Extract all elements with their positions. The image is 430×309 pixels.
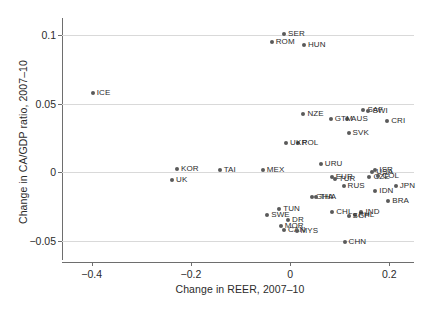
x-tick-mark — [191, 262, 192, 266]
y-tick-label: −0.05 — [10, 235, 56, 247]
data-point-label: MEX — [267, 166, 285, 174]
data-point-label: JPN — [400, 182, 415, 190]
data-point — [342, 184, 346, 188]
data-point-label: COL — [382, 172, 399, 180]
data-point — [301, 112, 305, 116]
data-point-label: UKR — [290, 139, 307, 147]
y-tick-label: 0 — [10, 166, 56, 178]
data-point-label: ROM — [276, 38, 295, 46]
gridline-y — [62, 172, 414, 173]
data-point — [91, 91, 95, 95]
x-tick-label: 0 — [260, 268, 320, 280]
data-point-label: GTM — [335, 115, 353, 123]
data-point — [282, 32, 286, 36]
x-tick-label: 0.2 — [359, 268, 419, 280]
data-point — [295, 229, 299, 233]
data-point — [265, 213, 269, 217]
data-point — [302, 43, 306, 47]
data-point — [175, 167, 179, 171]
data-point — [385, 119, 389, 123]
data-point — [279, 224, 283, 228]
gridline-y — [62, 35, 414, 36]
x-tick-label: −0.2 — [161, 268, 221, 280]
data-point-label: IDN — [379, 187, 393, 195]
x-axis-title: Change in REER, 2007–10 — [60, 283, 420, 295]
data-point — [333, 177, 337, 181]
data-point-label: CHN — [349, 238, 367, 246]
y-tick-label: 0.05 — [10, 98, 56, 110]
data-point — [314, 195, 318, 199]
data-point-label: SGP — [353, 212, 370, 220]
gridline-y — [62, 104, 414, 105]
y-axis-title: Change in CA/GDP ratio, 2007–10 — [14, 22, 32, 262]
data-point-label: ICE — [97, 89, 111, 97]
data-point-label: SVK — [353, 129, 369, 137]
data-point — [343, 240, 347, 244]
data-point — [361, 108, 365, 112]
data-point — [373, 189, 377, 193]
data-point — [270, 40, 274, 44]
data-point-label: CRI — [391, 117, 405, 125]
data-point-label: AUS — [351, 115, 368, 123]
x-tick-label: −0.4 — [62, 268, 122, 280]
data-point — [282, 228, 286, 232]
data-point — [386, 199, 390, 203]
plot-area: ICESERROMHUNSAFSWICRIAUSGTMNZESVKPOLUKRU… — [62, 18, 414, 258]
x-axis-spine — [62, 262, 414, 263]
x-tick-mark — [92, 262, 93, 266]
data-point-label: URU — [325, 160, 343, 168]
data-point-label: THA — [320, 193, 336, 201]
data-point — [329, 117, 333, 121]
y-tick-label: 0.1 — [10, 29, 56, 41]
data-point-label: BRA — [392, 197, 409, 205]
data-point-label: UK — [176, 176, 187, 184]
data-point — [284, 141, 288, 145]
data-point-label: RUS — [348, 182, 365, 190]
data-point — [170, 178, 174, 182]
data-point — [347, 131, 351, 135]
data-point-label: TAI — [224, 166, 236, 174]
data-point — [319, 162, 323, 166]
data-point-label: NZE — [307, 110, 323, 118]
data-point — [330, 210, 334, 214]
data-point-label: SWI — [372, 107, 387, 115]
data-point-label: MYS — [301, 227, 319, 235]
x-tick-mark — [389, 262, 390, 266]
data-point-label: KOR — [181, 165, 199, 173]
x-tick-mark — [290, 262, 291, 266]
data-point — [367, 175, 371, 179]
data-point — [394, 184, 398, 188]
data-point-label: HUN — [308, 41, 326, 49]
data-point — [347, 214, 351, 218]
scatter-chart-figure: Change in CA/GDP ratio, 2007–10 −0.0500.… — [0, 0, 430, 309]
